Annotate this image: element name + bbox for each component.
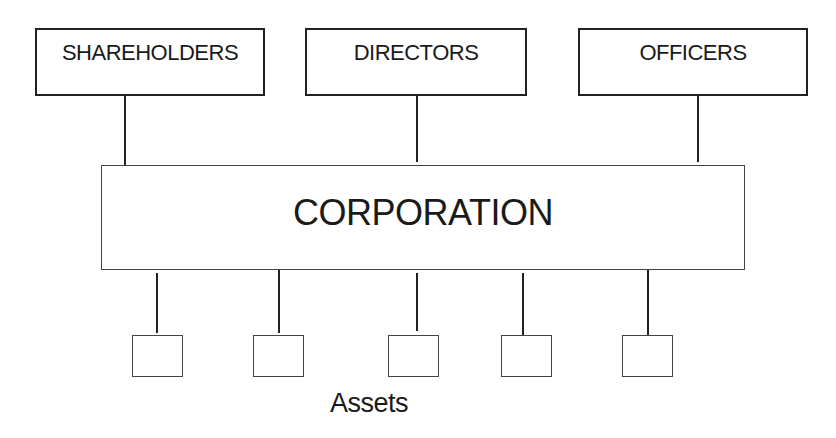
- asset-box-3: [388, 335, 439, 377]
- directors-label: DIRECTORS: [307, 40, 525, 66]
- asset-connector-1: [156, 273, 158, 333]
- asset-connector-2: [278, 270, 280, 333]
- asset-box-5: [622, 335, 673, 377]
- officers-connector: [697, 96, 699, 162]
- directors-box: DIRECTORS: [305, 28, 527, 96]
- officers-box: OFFICERS: [578, 28, 808, 96]
- asset-box-4: [501, 335, 552, 377]
- officers-label: OFFICERS: [580, 40, 806, 66]
- shareholders-label: SHAREHOLDERS: [37, 40, 263, 66]
- asset-connector-5: [647, 270, 649, 335]
- corporation-box: CORPORATION: [101, 165, 745, 270]
- asset-box-2: [253, 335, 304, 377]
- corporation-label: CORPORATION: [102, 192, 744, 234]
- asset-connector-4: [522, 273, 524, 335]
- shareholders-box: SHAREHOLDERS: [35, 28, 265, 96]
- asset-connector-3: [416, 273, 418, 331]
- shareholders-connector: [124, 96, 126, 169]
- directors-connector: [416, 96, 418, 162]
- asset-box-1: [132, 335, 183, 377]
- assets-label: Assets: [330, 388, 405, 419]
